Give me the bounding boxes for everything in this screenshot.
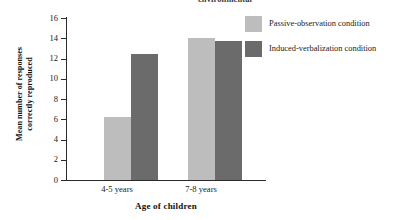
x-axis-title: Age of children [66, 201, 266, 211]
cut-off-chart-title: environmental [198, 0, 318, 2]
legend-item-label: Passive-observation condition [269, 19, 370, 29]
legend-item: Induced-verbalization condition [245, 41, 399, 61]
legend-swatch-passive-observation [245, 16, 262, 32]
bar-induced-verbalization [131, 54, 158, 180]
y-axis-title-line1: Mean number of responses [15, 47, 24, 141]
y-axis-tick-label: 10 [34, 74, 58, 83]
bar-passive-observation [188, 38, 215, 180]
y-axis-tick-label-text: 10 [36, 74, 58, 83]
bars-layer [66, 18, 266, 180]
y-axis-title: Mean number of responses correctly repro… [15, 20, 35, 168]
bar-induced-verbalization [215, 41, 242, 180]
bar-passive-observation [104, 117, 131, 180]
y-axis-tick-label: 16 [34, 14, 58, 23]
y-axis-tick-label-text: 12 [36, 54, 58, 63]
y-axis-tick-label-text: 14 [36, 34, 58, 43]
x-axis-line [66, 180, 266, 181]
x-axis-category-label: 4-5 years [77, 185, 157, 194]
y-axis-tick-label: 0 [34, 176, 58, 185]
y-axis-tick-label-text: 0 [36, 176, 58, 185]
y-axis-tick-label: 2 [34, 155, 58, 164]
y-axis-tick-label: 4 [34, 135, 58, 144]
legend-swatch-induced-verbalization [245, 41, 262, 57]
legend-item-label: Induced-verbalization condition [269, 44, 376, 54]
bar-chart-figure: environmental 1614121086420 4-5 years7-8… [0, 0, 399, 220]
y-axis-tick-label-text: 6 [36, 115, 58, 124]
y-axis-tick-label: 8 [34, 95, 58, 104]
chart-legend: Passive-observation conditionInduced-ver… [245, 16, 399, 66]
y-axis-tick-mark [61, 180, 67, 181]
y-axis-title-line2: correctly reproduced [25, 57, 34, 130]
y-axis-tick-label: 6 [34, 115, 58, 124]
y-axis-tick-label-text: 2 [36, 155, 58, 164]
y-axis-tick-label-text: 4 [36, 135, 58, 144]
y-axis-tick-label-text: 16 [36, 14, 58, 23]
y-axis-tick-label: 12 [34, 54, 58, 63]
legend-item: Passive-observation condition [245, 16, 399, 36]
y-axis-tick-label-text: 8 [36, 95, 58, 104]
x-axis-category-label: 7-8 years [161, 185, 241, 194]
y-axis-tick-label: 14 [34, 34, 58, 43]
